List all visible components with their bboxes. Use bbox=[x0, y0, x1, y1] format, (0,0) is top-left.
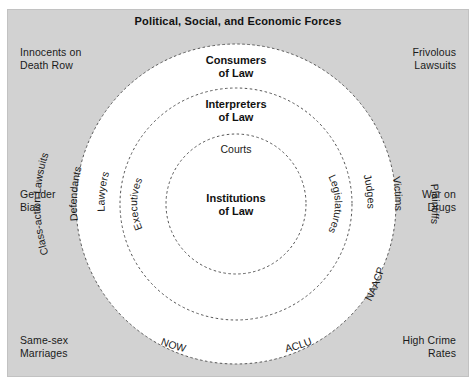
concentric-circles-diagram: Defendants Victims Class-action Lawsuits… bbox=[0, 0, 476, 386]
ring-title-middle: Interpreters of Law bbox=[136, 98, 336, 124]
ring-title-outer: Consumers of Law bbox=[136, 54, 336, 80]
corner-label-bottom-left: Same-sex Marriages bbox=[20, 334, 68, 360]
ring-item-courts: Courts bbox=[136, 143, 336, 155]
corner-label-top-right: Frivolous Lawsuits bbox=[413, 46, 457, 72]
corner-label-middle-right: War on Drugs bbox=[422, 188, 456, 214]
diagram-title: Political, Social, and Economic Forces bbox=[0, 15, 476, 27]
corner-label-top-left: Innocents on Death Row bbox=[20, 46, 81, 72]
corner-label-bottom-right: High Crime Rates bbox=[402, 334, 456, 360]
ring-title-inner: Institutions of Law bbox=[136, 192, 336, 218]
corner-label-middle-left: Gender Bias bbox=[20, 188, 56, 214]
